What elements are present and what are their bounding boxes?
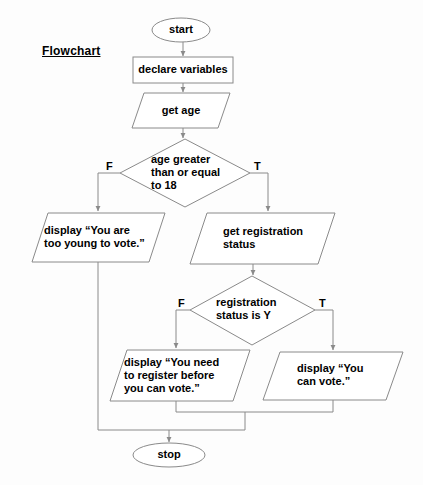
connector-needregister-to-merge: [176, 401, 245, 412]
flowchart-graphics: [0, 0, 423, 485]
node-stop-shape[interactable]: [133, 443, 205, 467]
node-getregistration-shape[interactable]: [190, 213, 335, 264]
node-tooyoung-shape[interactable]: [32, 213, 165, 262]
branch-label-registration-false: F: [178, 297, 185, 309]
node-registrationdecision-shape[interactable]: [190, 276, 315, 345]
node-start-shape[interactable]: [152, 18, 210, 42]
node-needregister-shape[interactable]: [110, 350, 250, 401]
branch-label-age-true: T: [254, 160, 261, 172]
node-agedecision-shape[interactable]: [120, 139, 250, 207]
node-declare-shape[interactable]: [133, 57, 233, 83]
branch-label-age-false: F: [106, 160, 113, 172]
flowchart-canvas: Flowchart: [0, 0, 423, 485]
connector-registrationdecision-true-to-canvote: [315, 310, 333, 350]
node-canvote-shape[interactable]: [263, 352, 403, 400]
connector-registrationdecision-false-to-needregister: [176, 310, 190, 348]
connector-agedecision-true-to-getregistration: [250, 173, 268, 211]
branch-label-registration-true: T: [319, 297, 326, 309]
node-getage-shape[interactable]: [132, 93, 230, 128]
connector-agedecision-false-to-tooyoung: [98, 173, 120, 211]
connector-canvote-to-merge: [245, 400, 333, 412]
